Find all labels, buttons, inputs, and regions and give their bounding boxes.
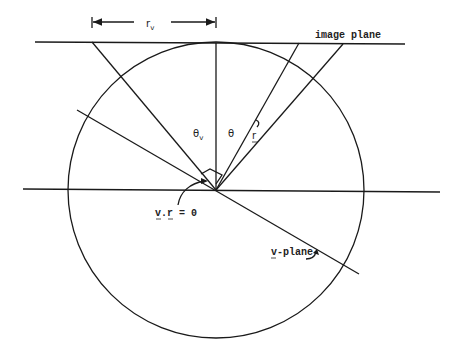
r_v-label: rv: [146, 18, 154, 32]
unit-sphere-projection-diagram: rv image plane θv θ r v.r = 0 v-plane: [0, 0, 461, 357]
v-dot-r-leader: [178, 181, 205, 205]
image-plane-label: image plane: [315, 30, 381, 41]
view-ray-left: [92, 42, 216, 190]
r-vector-label: r: [252, 130, 257, 141]
v-dot-r-zero-label: v.r = 0: [155, 208, 197, 219]
theta-label: θ: [228, 128, 234, 139]
r-vector-arc: [256, 120, 259, 127]
theta-v-label: θv: [193, 128, 203, 142]
v-plane-label: v-plane: [271, 247, 313, 258]
horizontal-axis: [23, 189, 440, 192]
view-ray-theta: [216, 43, 299, 190]
view-ray-right: [216, 44, 343, 190]
